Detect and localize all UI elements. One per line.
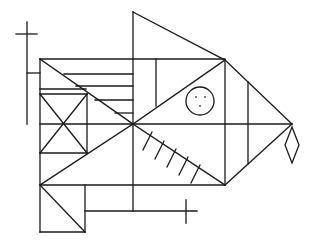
bottom-left-square <box>40 185 85 232</box>
figure-canvas: Complex geometric line figure (fish-like… <box>0 0 315 245</box>
head-section <box>225 60 292 185</box>
hatched-diagonal <box>133 124 225 185</box>
tail-diamond <box>285 127 299 163</box>
bottom-cross <box>85 200 197 223</box>
geometric-figure <box>0 0 315 245</box>
eye-circle <box>186 87 214 115</box>
left-cross <box>16 22 40 124</box>
main-rectangle <box>40 12 292 232</box>
